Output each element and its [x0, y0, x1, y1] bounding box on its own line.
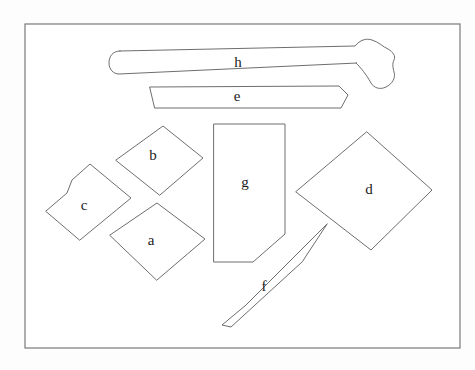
shape-label-d: d — [365, 181, 373, 197]
shape-label-c: c — [81, 197, 88, 213]
shape-outline-e — [150, 86, 348, 108]
shape-label-h: h — [234, 54, 242, 70]
shape-label-a: a — [148, 232, 155, 248]
shape-label-e: e — [234, 88, 241, 104]
shape-diagram-canvas: a b c d e f g h — [0, 0, 475, 370]
shape-label-f: f — [262, 278, 267, 294]
figure-container: a b c d e f g h — [0, 0, 475, 370]
shape-outline-g — [214, 124, 285, 262]
shape-label-b: b — [149, 147, 157, 163]
shape-label-g: g — [241, 174, 249, 190]
